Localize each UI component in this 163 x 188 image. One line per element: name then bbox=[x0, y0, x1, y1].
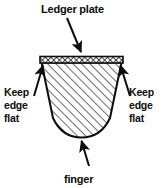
diagram-canvas: Ledger plate Keep edge flat Keep edge fl… bbox=[0, 0, 163, 188]
label-keep-edge-flat-left-line3: flat bbox=[4, 112, 20, 124]
finger-body bbox=[42, 63, 122, 138]
label-finger: finger bbox=[64, 173, 94, 185]
finger-arrow bbox=[82, 141, 90, 166]
ledger-plate-arrow bbox=[67, 18, 81, 52]
label-ledger-plate: Ledger plate bbox=[41, 3, 104, 15]
label-keep-edge-flat-right-line1: Keep bbox=[129, 86, 154, 98]
keep-edge-flat-left-arrow bbox=[34, 66, 43, 97]
label-keep-edge-flat-left-line2: edge bbox=[4, 99, 28, 111]
label-keep-edge-flat-right-line2: edge bbox=[129, 99, 153, 111]
label-keep-edge-flat-left-line1: Keep bbox=[4, 86, 29, 98]
ledger-plate-band bbox=[40, 57, 123, 64]
label-keep-edge-flat-right-line3: flat bbox=[129, 112, 145, 124]
diagram-svg: Ledger plate Keep edge flat Keep edge fl… bbox=[0, 0, 163, 188]
